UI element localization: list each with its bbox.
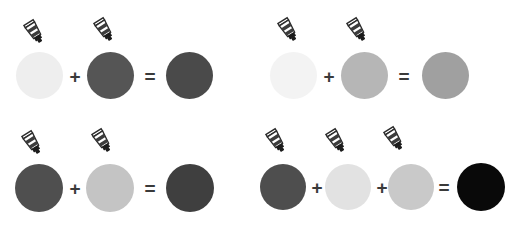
paint-tube-icon	[341, 14, 375, 48]
plus-operator: +	[66, 179, 84, 197]
equation-top-right: + =	[252, 0, 504, 113]
equals-operator: =	[395, 67, 413, 85]
paint-swatch	[87, 52, 134, 99]
equals-operator: =	[141, 67, 159, 85]
paint-swatch	[16, 52, 63, 99]
equals-operator: =	[435, 178, 453, 196]
paint-tube-icon	[88, 14, 122, 48]
plus-operator: +	[320, 67, 338, 85]
paint-tube-icon	[378, 123, 412, 157]
paint-swatch	[325, 164, 371, 210]
paint-tube-icon	[18, 16, 52, 50]
equation-bottom-right: + + =	[252, 113, 504, 226]
equation-bottom-left: + =	[0, 113, 252, 226]
paint-tube-icon	[16, 127, 50, 161]
paint-swatch-result	[166, 52, 213, 99]
paint-swatch	[270, 52, 317, 99]
paint-tube-icon	[320, 125, 354, 159]
paint-tube-icon	[260, 125, 294, 159]
equals-operator: =	[141, 179, 159, 197]
paint-swatch-result	[457, 163, 505, 211]
paint-swatch-result	[166, 164, 214, 212]
plus-operator: +	[66, 67, 84, 85]
paint-swatch	[260, 164, 306, 210]
paint-tube-icon	[86, 125, 120, 159]
paint-swatch	[15, 164, 63, 212]
plus-operator: +	[308, 178, 326, 196]
paint-swatch-result	[422, 52, 469, 99]
paint-tube-icon	[272, 14, 306, 48]
paint-swatch	[388, 164, 434, 210]
paint-swatch	[341, 52, 388, 99]
equation-top-left: + =	[0, 0, 252, 113]
paint-swatch	[86, 164, 134, 212]
